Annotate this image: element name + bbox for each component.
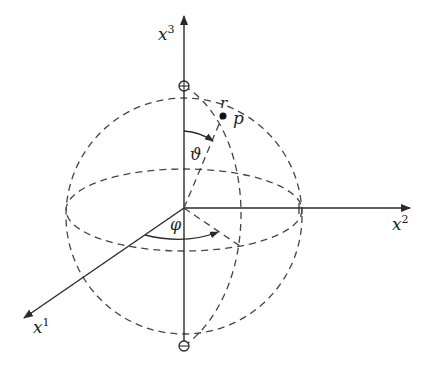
x1-axis <box>24 208 184 318</box>
north-pole-icon <box>179 81 189 91</box>
theta-arc <box>184 131 213 141</box>
point-p-label: p <box>233 108 244 128</box>
phi-arc <box>145 232 218 239</box>
x3-label: x3 <box>158 23 175 44</box>
south-pole-icon <box>179 341 189 351</box>
phi-label: φ <box>170 215 182 234</box>
spherical-coordinates-diagram: x3 x2 x1 r p ϑ φ <box>0 0 428 365</box>
radius-label: r <box>220 94 228 112</box>
x2-label: x2 <box>392 213 409 234</box>
projection-line <box>184 208 240 246</box>
x1-label: x1 <box>33 316 50 337</box>
theta-label: ϑ <box>190 145 201 164</box>
point-p-marker <box>220 113 227 120</box>
